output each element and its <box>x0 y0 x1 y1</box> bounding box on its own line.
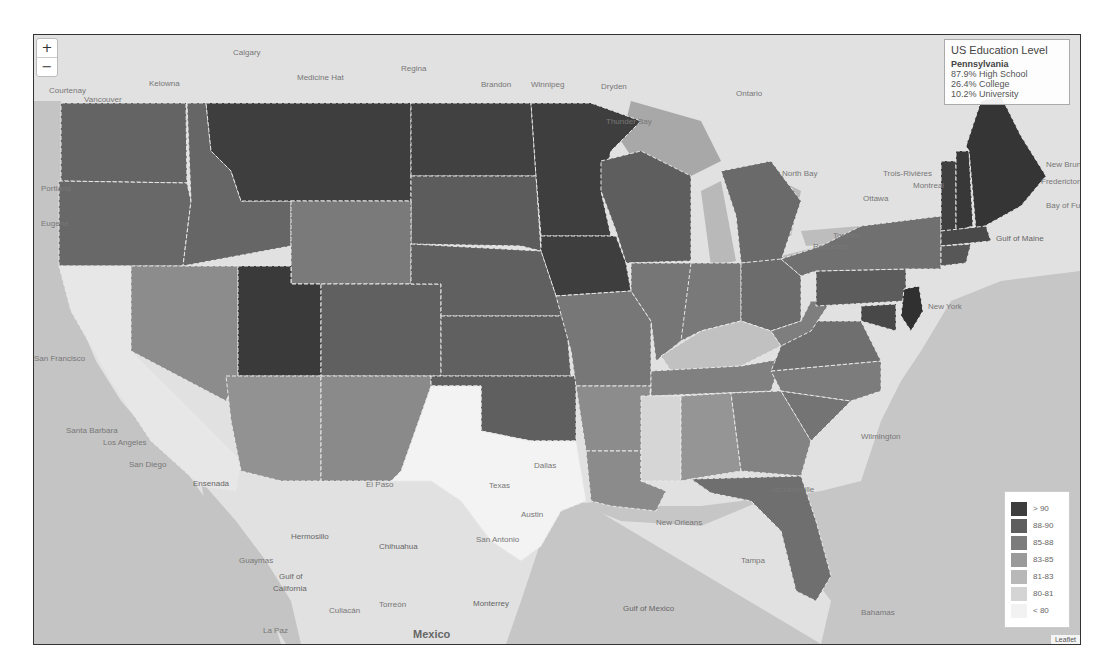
legend-swatch <box>1011 587 1027 601</box>
label-courtenay: Courtenay <box>49 86 86 95</box>
label-monterrey: Monterrey <box>473 599 509 608</box>
label-ottawa: Ottawa <box>863 194 889 203</box>
legend-item: 85-88 <box>1011 534 1063 551</box>
state-colorado[interactable] <box>321 284 441 376</box>
label-hermosillo: Hermosillo <box>291 532 329 541</box>
label-north-bay: North Bay <box>782 169 818 178</box>
state-mississippi[interactable] <box>641 396 681 481</box>
attribution-link[interactable]: Leaflet <box>1051 635 1080 644</box>
state-south-dakota[interactable] <box>411 176 541 251</box>
legend-label: > 90 <box>1033 504 1049 513</box>
label-kelowna: Kelowna <box>149 79 180 88</box>
state-oregon[interactable] <box>59 181 191 266</box>
legend-swatch <box>1011 604 1027 618</box>
label-wilmington: Wilmington <box>861 432 901 441</box>
label-gulf-of-california: Gulf of <box>279 572 303 581</box>
legend-swatch <box>1011 502 1027 516</box>
label-rochester: Rochester <box>813 242 850 251</box>
label-trois-rivieres: Trois-Rivières <box>883 169 932 178</box>
label-gulf-of-california-2: California <box>273 584 307 593</box>
label-bay-of-fundy: Bay of Fundy <box>1046 201 1080 210</box>
state-washington[interactable] <box>61 103 187 183</box>
label-culiacan: Culiacán <box>329 606 360 615</box>
label-san-francisco: San Francisco <box>34 354 86 363</box>
legend-swatch <box>1011 536 1027 550</box>
state-north-dakota[interactable] <box>411 103 536 176</box>
legend-item: 83-85 <box>1011 551 1063 568</box>
label-vancouver: Vancouver <box>84 95 122 104</box>
map-container[interactable]: Calgary Courtenay Vancouver Kelowna Medi… <box>33 34 1081 645</box>
info-panel: US Education Level Pennsylvania 87.9% Hi… <box>944 39 1070 105</box>
legend-label: < 80 <box>1033 606 1049 615</box>
label-santa-barbara: Santa Barbara <box>66 426 118 435</box>
label-portland: Portland <box>41 184 71 193</box>
state-iowa[interactable] <box>541 236 631 296</box>
legend-swatch <box>1011 519 1027 533</box>
label-el-paso: El Paso <box>366 480 394 489</box>
label-new-brunswick: New Brunswick <box>1046 160 1080 169</box>
label-dryden: Dryden <box>601 82 627 91</box>
legend-swatch <box>1011 570 1027 584</box>
label-mexico: Mexico <box>413 628 451 640</box>
label-new-york: New York <box>928 302 963 311</box>
state-pennsylvania[interactable] <box>816 269 906 306</box>
label-tampa: Tampa <box>741 556 766 565</box>
label-san-diego: San Diego <box>129 460 167 469</box>
info-state-name: Pennsylvania <box>951 59 1063 69</box>
state-alabama[interactable] <box>681 393 741 481</box>
state-arkansas[interactable] <box>576 386 651 451</box>
legend-swatch <box>1011 553 1027 567</box>
state-kansas[interactable] <box>441 316 571 376</box>
legend-item: < 80 <box>1011 602 1063 619</box>
legend-item: 80-81 <box>1011 585 1063 602</box>
state-montana[interactable] <box>206 103 411 201</box>
label-bahamas: Bahamas <box>861 608 895 617</box>
state-arizona[interactable] <box>226 376 321 481</box>
label-gulf-of-maine: Gulf of Maine <box>996 234 1044 243</box>
label-eugene: Eugene <box>41 219 69 228</box>
legend-label: 85-88 <box>1033 538 1053 547</box>
state-vermont[interactable] <box>941 161 956 231</box>
label-new-orleans: New Orleans <box>656 518 702 527</box>
label-la-paz: La Paz <box>263 626 288 635</box>
label-chihuahua: Chihuahua <box>379 542 418 551</box>
info-title: US Education Level <box>951 45 1063 55</box>
label-dallas: Dallas <box>534 461 556 470</box>
label-winnipeg: Winnipeg <box>531 80 564 89</box>
legend-item: 81-83 <box>1011 568 1063 585</box>
state-wyoming[interactable] <box>291 201 411 284</box>
legend-item: 88-90 <box>1011 517 1063 534</box>
info-high-school: 87.9% High School <box>951 69 1063 79</box>
label-los-angeles: Los Angeles <box>103 438 147 447</box>
label-brandon: Brandon <box>481 80 511 89</box>
legend-label: 88-90 <box>1033 521 1053 530</box>
zoom-controls: + − <box>36 38 58 77</box>
legend-label: 80-81 <box>1033 589 1053 598</box>
label-texas: Texas <box>489 481 510 490</box>
label-jacksonville: Jacksonville <box>771 485 815 494</box>
legend: > 90 88-90 85-88 83-85 81-83 80-81 < 80 <box>1004 491 1070 628</box>
state-ohio[interactable] <box>741 259 801 331</box>
zoom-in-button[interactable]: + <box>37 39 57 57</box>
label-calgary: Calgary <box>233 48 261 57</box>
info-college: 26.4% College <box>951 79 1063 89</box>
label-medicine-hat: Medicine Hat <box>297 73 344 82</box>
legend-item: > 90 <box>1011 500 1063 517</box>
label-regina: Regina <box>401 64 427 73</box>
legend-label: 83-85 <box>1033 555 1053 564</box>
label-ontario: Ontario <box>736 89 763 98</box>
label-toronto: Toronto <box>833 231 860 240</box>
label-san-antonio: San Antonio <box>476 535 520 544</box>
label-fredericton: Fredericton <box>1041 177 1080 186</box>
label-guaymas: Guaymas <box>239 556 273 565</box>
label-gulf-of-mexico: Gulf of Mexico <box>623 604 675 613</box>
label-ensenada: Ensenada <box>193 479 230 488</box>
info-university: 10.2% University <box>951 89 1063 99</box>
label-montreal: Montreal <box>913 181 944 190</box>
label-thunder-bay: Thunder Bay <box>606 117 652 126</box>
state-connecticut[interactable] <box>941 244 971 266</box>
choropleth-map[interactable]: Calgary Courtenay Vancouver Kelowna Medi… <box>34 35 1080 644</box>
zoom-out-button[interactable]: − <box>37 57 57 76</box>
label-torreon: Torreón <box>379 600 406 609</box>
legend-label: 81-83 <box>1033 572 1053 581</box>
